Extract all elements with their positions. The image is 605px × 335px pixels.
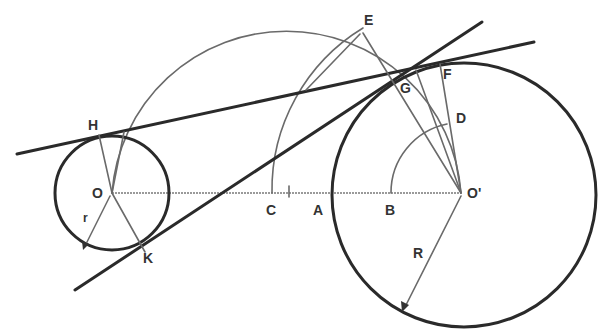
label-K: K bbox=[143, 250, 153, 266]
line-O-to-semicircle bbox=[112, 132, 124, 193]
tangent-construction-diagram: E F G D H O O' C A B K r R bbox=[0, 0, 605, 335]
radius-r bbox=[85, 196, 110, 246]
upper-tangent-line bbox=[17, 42, 534, 154]
label-H: H bbox=[88, 117, 98, 133]
label-R: R bbox=[413, 245, 423, 261]
radius-O-K bbox=[112, 193, 145, 252]
label-O: O bbox=[92, 185, 103, 201]
label-F: F bbox=[443, 66, 452, 82]
line-Oprime-E bbox=[363, 33, 461, 193]
label-G: G bbox=[400, 80, 411, 96]
label-O-prime: O' bbox=[467, 185, 481, 201]
label-D: D bbox=[456, 110, 466, 126]
label-A: A bbox=[313, 202, 323, 218]
large-circle bbox=[332, 63, 596, 327]
label-r: r bbox=[83, 211, 88, 225]
arc-B-to-D bbox=[391, 124, 447, 193]
label-B: B bbox=[385, 202, 395, 218]
label-C: C bbox=[266, 202, 276, 218]
label-E: E bbox=[364, 12, 373, 28]
